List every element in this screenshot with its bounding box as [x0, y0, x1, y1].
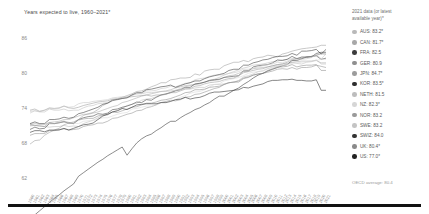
y-tick-label: 68 [21, 140, 27, 146]
legend-dot-icon [352, 61, 357, 66]
plot-area: 6268748086 [30, 26, 326, 178]
y-tick-label: 86 [21, 35, 27, 41]
chart-page: Years expected to live, 1960–2021* 62687… [0, 0, 429, 214]
legend-dot-icon [352, 102, 357, 107]
y-tick-label: 62 [21, 175, 27, 181]
legend-dot-icon [352, 71, 357, 76]
line-series-can [30, 60, 326, 124]
bottom-rule [8, 204, 421, 207]
line-series-ger [30, 65, 326, 135]
legend-item-ger[interactable]: GER: 80.9 [352, 58, 428, 68]
legend-dot-icon [352, 113, 357, 118]
legend-item-nor[interactable]: NOR: 83.2 [352, 110, 428, 120]
y-tick-label: 80 [21, 70, 27, 76]
legend-dot-icon [352, 82, 357, 87]
legend-item-aus[interactable]: AUS: 83.2* [352, 27, 428, 37]
legend-dot-icon [352, 50, 357, 55]
legend-item-label: NOR: 83.2 [360, 113, 382, 118]
legend-item-uk[interactable]: UK: 80.4* [352, 141, 428, 151]
legend-dot-icon [352, 154, 357, 159]
legend-dot-icon [352, 92, 357, 97]
legend-item-label: US: 77.0* [360, 154, 380, 159]
x-axis-ticks: 1960196119621963196419651966196719681969… [30, 178, 326, 204]
legend-item-label: FRA: 82.5 [360, 50, 381, 55]
legend-item-can[interactable]: CAN: 81.7* [352, 37, 428, 47]
legend-header: 2021 data (or latest available year)* [352, 9, 410, 23]
legend-item-jpn[interactable]: JPN: 84.7* [352, 68, 428, 78]
legend-item-label: JPN: 84.7* [360, 71, 382, 76]
legend-item-label: UK: 80.4* [360, 144, 380, 149]
legend-item-label: KOR: 83.5* [360, 81, 384, 86]
legend-item-label: GER: 80.9 [360, 61, 382, 66]
legend-item-fra[interactable]: FRA: 82.5 [352, 48, 428, 58]
legend-item-label: AUS: 83.2* [360, 29, 383, 34]
line-series-nor [30, 53, 326, 111]
legend-item-swe[interactable]: SWE: 83.2 [352, 120, 428, 130]
line-series-swe [30, 54, 326, 113]
legend-item-nz[interactable]: NZ: 82.3* [352, 100, 428, 110]
legend-dot-icon [352, 123, 357, 128]
oecd-average-note: OECD average: 80.4 [352, 180, 393, 185]
legend-dot-icon [352, 30, 357, 35]
legend-item-neth[interactable]: NETH: 81.5 [352, 89, 428, 99]
legend-dot-icon [352, 144, 357, 149]
series-lines [30, 26, 326, 178]
legend-item-label: SWIZ: 84.0 [360, 133, 383, 138]
legend-item-label: NZ: 82.3* [360, 102, 380, 107]
legend-item-kor[interactable]: KOR: 83.5* [352, 79, 428, 89]
chart-title: Years expected to live, 1960–2021* [24, 9, 111, 15]
legend-dot-icon [352, 134, 357, 139]
legend-item-label: SWE: 83.2 [360, 123, 382, 128]
legend-item-label: NETH: 81.5 [360, 92, 385, 97]
legend-rows: AUS: 83.2*CAN: 81.7*FRA: 82.5GER: 80.9JP… [352, 27, 428, 162]
legend-item-label: CAN: 81.7* [360, 40, 383, 45]
line-series-aus [30, 54, 326, 127]
legend-dot-icon [352, 40, 357, 45]
legend-item-swiz[interactable]: SWIZ: 84.0 [352, 131, 428, 141]
legend-item-us[interactable]: US: 77.0* [352, 151, 428, 161]
legend: 2021 data (or latest available year)* AU… [352, 9, 428, 162]
y-tick-label: 74 [21, 105, 27, 111]
